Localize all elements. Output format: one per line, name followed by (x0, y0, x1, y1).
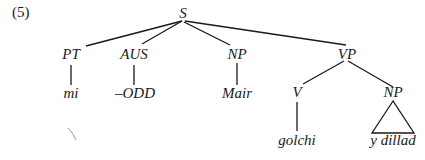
leaf-mair: Mair (221, 85, 252, 101)
edge-s-np (184, 22, 230, 45)
np-triangle-icon (372, 101, 414, 133)
node-aus: AUS (119, 46, 148, 62)
node-vp: VP (338, 46, 356, 62)
node-pt: PT (61, 46, 81, 62)
edge-s-pt (86, 21, 182, 46)
leaf-mi: mi (64, 85, 79, 101)
node-np-object: NP (382, 84, 402, 100)
leaf-y-dillad: y dillad (368, 132, 416, 148)
stray-mark (68, 128, 76, 140)
node-s: S (179, 5, 187, 21)
edge-vp-v (303, 61, 344, 84)
node-np-subject: NP (226, 46, 246, 62)
edge-s-vp (185, 21, 346, 45)
leaf-odd: –ODD (114, 85, 155, 101)
example-number: (5) (12, 4, 30, 21)
syntax-tree-diagram: (5) S PT AUS NP VP mi –ODD Mair V NP gol… (0, 0, 425, 160)
leaf-golchi: golchi (278, 132, 316, 148)
edge-s-aus (142, 21, 182, 44)
node-v: V (292, 84, 303, 100)
